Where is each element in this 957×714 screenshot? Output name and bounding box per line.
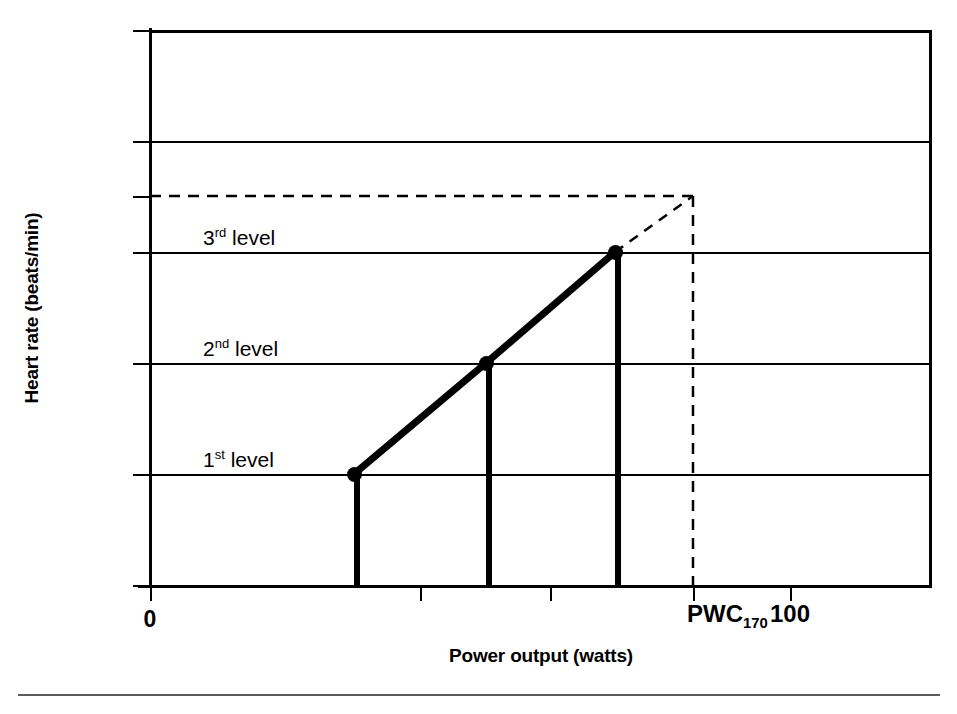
ytick-mark-160 — [133, 252, 150, 254]
xtick-minor-2 — [550, 586, 552, 601]
level-2-suffix: nd — [215, 336, 229, 351]
ytick-mark-140 — [133, 363, 150, 365]
xtick-origin — [150, 586, 152, 601]
y-axis-title: Heart rate (beats/min) — [21, 158, 43, 458]
level-2-text: level — [229, 337, 278, 360]
pwc-annotation: PWC170 — [687, 602, 768, 626]
pwc-subscript-text: 170 — [743, 615, 768, 631]
dashed-extrapolation — [615, 196, 693, 252]
ytick-mark-170 — [133, 196, 150, 198]
data-point-1 — [347, 467, 362, 482]
xtick-100 — [790, 586, 792, 601]
data-point-2 — [479, 356, 494, 371]
stem-level-1 — [354, 474, 360, 585]
level-2-ordinal: 2 — [203, 337, 215, 360]
ytick-mark-120 — [133, 474, 150, 476]
level-3-suffix: rd — [215, 225, 227, 240]
level-3-ordinal: 3 — [203, 226, 215, 249]
xtick-pwc — [693, 586, 695, 601]
data-point-3 — [608, 245, 623, 260]
level-3-text: level — [226, 226, 275, 249]
xtick-minor-1 — [420, 586, 422, 601]
level-1-ordinal: 1 — [203, 448, 215, 471]
plot-area: 200 180 170 160 140 120 100 0 100 PWC170 — [150, 30, 932, 585]
ytick-mark-200 — [133, 30, 150, 32]
stem-level-2 — [486, 363, 492, 585]
chart-figure: Heart rate (beats/min) Power output (wat… — [0, 0, 957, 714]
stem-level-3 — [615, 252, 621, 585]
x-axis-line — [138, 585, 932, 588]
ytick-mark-100 — [133, 585, 150, 587]
footer-rule — [18, 694, 940, 696]
series-graphics — [150, 30, 932, 585]
level-label-2: 2nd level — [203, 338, 278, 359]
xtick-label-0: 0 — [80, 608, 220, 631]
ytick-mark-180 — [133, 141, 150, 143]
x-axis-title: Power output (watts) — [150, 645, 932, 667]
pwc-base-text: PWC — [687, 600, 743, 627]
level-1-suffix: st — [215, 447, 225, 462]
level-label-1: 1st level — [203, 449, 274, 470]
level-1-text: level — [225, 448, 274, 471]
level-label-3: 3rd level — [203, 227, 275, 248]
